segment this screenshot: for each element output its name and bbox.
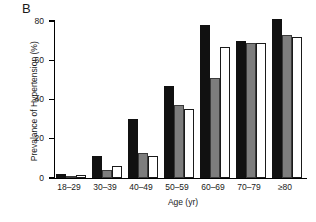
y-tick-mark <box>49 60 54 61</box>
x-axis-line <box>54 178 307 179</box>
chart-figure: B Prevalance of Hypertension (%) 0204060… <box>0 0 316 222</box>
x-tick-label: 60–69 <box>195 183 231 192</box>
bar-series-3-white <box>76 175 86 178</box>
bar-group <box>163 21 199 178</box>
bar-group <box>91 21 127 178</box>
bar-series-1-black <box>272 19 282 178</box>
bar-series-2-gray <box>282 35 292 178</box>
x-tick-label: 40–49 <box>123 183 159 192</box>
bar-series-1-black <box>200 25 210 178</box>
y-tick-label: 40 <box>4 95 44 104</box>
plot-area <box>55 21 307 178</box>
y-tick-mark <box>49 20 54 21</box>
bar-series-3-white <box>148 156 158 178</box>
bar-group <box>55 21 91 178</box>
bar-series-3-white <box>292 37 302 178</box>
x-tick-label: 70–79 <box>231 183 267 192</box>
x-tick-label: ≥80 <box>267 183 303 192</box>
bar-group <box>127 21 163 178</box>
bar-series-3-white <box>184 109 194 178</box>
bar-series-2-gray <box>210 78 220 178</box>
y-tick-mark <box>49 138 54 139</box>
x-tick-label: 18–29 <box>51 183 87 192</box>
bar-series-1-black <box>56 174 66 178</box>
bar-group <box>271 21 307 178</box>
bar-series-1-black <box>164 86 174 178</box>
y-tick-mark <box>49 99 54 100</box>
x-tick-label: 50–59 <box>159 183 195 192</box>
y-tick-mark <box>49 177 54 178</box>
bar-series-3-white <box>256 43 266 178</box>
x-axis-label: Age (yr) <box>0 198 316 207</box>
y-tick-label: 0 <box>4 174 44 183</box>
bar-series-2-gray <box>138 153 148 179</box>
bar-series-3-white <box>220 47 230 178</box>
y-tick-label: 80 <box>4 17 44 26</box>
y-tick-label: 60 <box>4 56 44 65</box>
bar-series-3-white <box>112 166 122 178</box>
bar-series-1-black <box>92 156 102 178</box>
bar-series-2-gray <box>102 170 112 178</box>
x-tick-label: 30–39 <box>87 183 123 192</box>
bar-series-1-black <box>236 41 246 178</box>
bar-group <box>199 21 235 178</box>
y-tick-label: 20 <box>4 134 44 143</box>
bar-group <box>235 21 271 178</box>
bar-series-2-gray <box>174 105 184 178</box>
bar-series-2-gray <box>66 176 76 178</box>
bar-series-1-black <box>128 119 138 178</box>
bar-series-2-gray <box>246 43 256 178</box>
